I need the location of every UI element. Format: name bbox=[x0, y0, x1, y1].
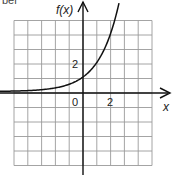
y-axis bbox=[78, 2, 88, 175]
origin-label: 0 bbox=[72, 97, 78, 108]
y-tick-label-2: 2 bbox=[72, 59, 78, 70]
x-axis-label: x bbox=[163, 101, 169, 113]
function-graph bbox=[0, 0, 178, 177]
x-axis bbox=[0, 88, 170, 98]
x-tick-label-2: 2 bbox=[107, 97, 113, 108]
y-axis-label: f(x) bbox=[56, 4, 73, 16]
